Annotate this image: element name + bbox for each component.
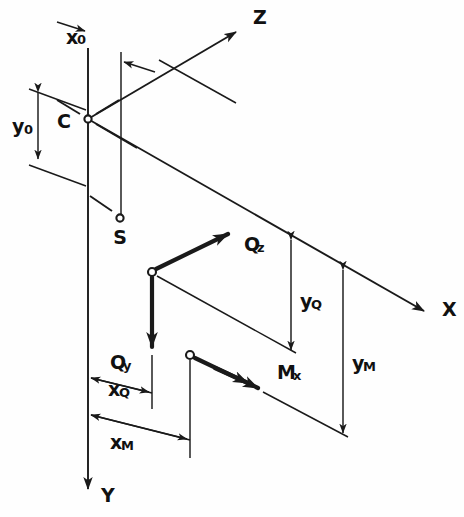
point-q-marker: [148, 268, 156, 276]
dimension-x0: x 0: [57, 22, 155, 215]
force-qz-arrow: [156, 234, 228, 269]
dimension-y0-sublabel: 0: [24, 122, 33, 137]
moment-mx-sublabel: x: [293, 368, 302, 383]
axis-x-line: [88, 119, 424, 311]
point-m-marker: [186, 351, 194, 359]
point-q-group: Q z Q y: [110, 233, 296, 410]
c-tick-lower-right: [96, 124, 137, 148]
c-tick-upper-right: [96, 100, 119, 114]
force-qz-sublabel: z: [257, 240, 265, 255]
m-oblique-construction: [263, 392, 348, 437]
dimension-ym: y M: [343, 270, 376, 433]
axis-z-label: Z: [253, 6, 267, 28]
axis-x: X: [88, 119, 457, 320]
technical-diagram-canvas: Z X Y x 0 y: [0, 0, 464, 517]
dimension-xq: x Q: [91, 378, 152, 401]
point-s-label: S: [113, 226, 127, 248]
axis-x-label: X: [442, 298, 457, 320]
x0-arrow-right: [124, 62, 155, 72]
y0-extension-bottom: [29, 165, 86, 186]
construction-lines: [159, 60, 236, 103]
point-m-group: M x: [186, 351, 348, 458]
axis-y-label: Y: [100, 484, 115, 506]
moment-mx-second-head: [215, 368, 248, 383]
point-s-marker: [116, 214, 123, 221]
dimension-xm: x M: [91, 415, 190, 453]
point-c-marker: [84, 115, 91, 122]
point-c-label: C: [57, 110, 71, 132]
z-parallel-upper: [159, 60, 236, 103]
dimension-y0: y 0: [12, 89, 86, 186]
dimension-xq-sublabel: Q: [119, 385, 130, 400]
force-qy-sublabel: y: [123, 358, 132, 373]
dimension-yq: y Q: [291, 240, 322, 350]
xm-arrow-right: [91, 415, 187, 439]
s-tick: [90, 196, 112, 211]
dimension-x0-sublabel: 0: [77, 32, 86, 47]
point-c-group: C: [57, 100, 137, 148]
coordinate-system-figure: Z X Y x 0 y: [0, 0, 464, 517]
dimension-yq-sublabel: Q: [311, 297, 322, 312]
dimension-ym-sublabel: M: [363, 359, 376, 374]
dimension-xm-sublabel: M: [121, 438, 134, 453]
q-oblique-construction: [157, 276, 296, 353]
